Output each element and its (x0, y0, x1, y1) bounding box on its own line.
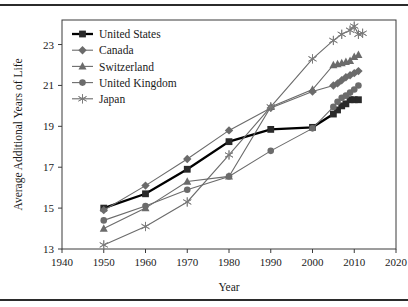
chart-legend: United StatesCanadaSwitzerlandUnited Kin… (72, 28, 177, 106)
legend-item-japan[interactable]: Japan (72, 93, 125, 106)
legend-marker (79, 62, 87, 70)
x-tick-label: 1950 (93, 256, 116, 268)
legend-marker (78, 46, 86, 54)
x-tick-label: 2010 (343, 256, 366, 268)
x-axis-title: Year (218, 281, 239, 293)
legend-label: United Kingdom (99, 77, 177, 90)
legend-label: United States (99, 28, 161, 40)
y-tick-label: 23 (43, 39, 55, 51)
x-tick-label: 1970 (176, 256, 199, 268)
x-tick-label: 1940 (51, 256, 74, 268)
x-tick-label: 1980 (218, 256, 241, 268)
series-layer (100, 22, 367, 250)
x-tick-label: 2020 (385, 256, 408, 268)
legend-item-united-states[interactable]: United States (72, 28, 161, 40)
figure-container: 131517192123 194019501960197019801990200… (0, 0, 408, 307)
figure-bottom-rule (0, 299, 408, 301)
y-axis-title: Average Additional Years of Life (12, 58, 25, 210)
series-line (104, 26, 363, 245)
x-tick-label: 1960 (135, 256, 158, 268)
y-tick-label: 21 (43, 79, 54, 91)
legend-item-canada[interactable]: Canada (72, 44, 133, 56)
legend-label: Japan (99, 93, 125, 106)
legend-label: Canada (99, 44, 133, 56)
legend-marker (79, 79, 86, 86)
legend-label: Switzerland (99, 61, 154, 73)
y-tick-label: 15 (43, 202, 55, 214)
legend-item-united-kingdom[interactable]: United Kingdom (72, 77, 177, 90)
line-chart: 131517192123 194019501960197019801990200… (0, 6, 408, 298)
chart-svg: 131517192123 194019501960197019801990200… (0, 6, 408, 298)
x-tick-label: 1990 (260, 256, 283, 268)
series-japan (100, 22, 367, 250)
x-axis-ticks: 194019501960197019801990200020102020 (51, 249, 408, 268)
y-tick-label: 17 (43, 161, 55, 173)
legend-marker (79, 31, 86, 38)
y-axis-ticks: 131517192123 (43, 39, 62, 255)
legend-item-switzerland[interactable]: Switzerland (72, 61, 154, 73)
x-tick-label: 2000 (302, 256, 325, 268)
y-tick-label: 13 (43, 243, 55, 255)
y-tick-label: 19 (43, 120, 55, 132)
series-markers (100, 22, 367, 250)
